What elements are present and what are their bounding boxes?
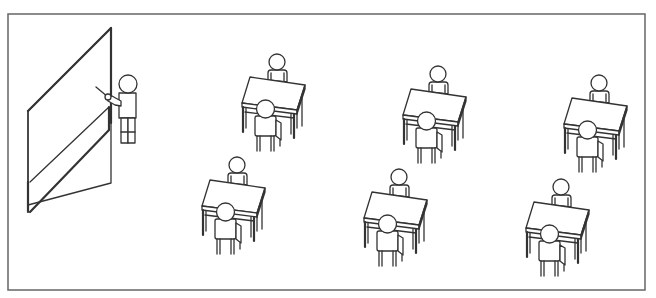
desk-group-3 bbox=[564, 75, 627, 172]
blackboard-icon bbox=[28, 28, 111, 212]
classroom-scene: Classroom illustration bbox=[0, 0, 656, 298]
desk-group-5 bbox=[364, 169, 427, 266]
desk-group-2 bbox=[403, 66, 466, 163]
classroom-illustration bbox=[0, 0, 656, 298]
desk-group-6 bbox=[526, 179, 589, 276]
desk-group-1 bbox=[242, 54, 305, 151]
desk-group-4 bbox=[202, 157, 265, 254]
